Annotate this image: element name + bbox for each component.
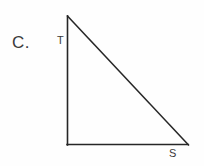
vertex-label-t: T	[57, 35, 64, 46]
vertex-label-s: S	[169, 148, 176, 159]
triangle-diagram	[0, 0, 204, 166]
figure-panel: C. T S	[0, 0, 204, 166]
triangle-hypotenuse	[68, 16, 189, 145]
